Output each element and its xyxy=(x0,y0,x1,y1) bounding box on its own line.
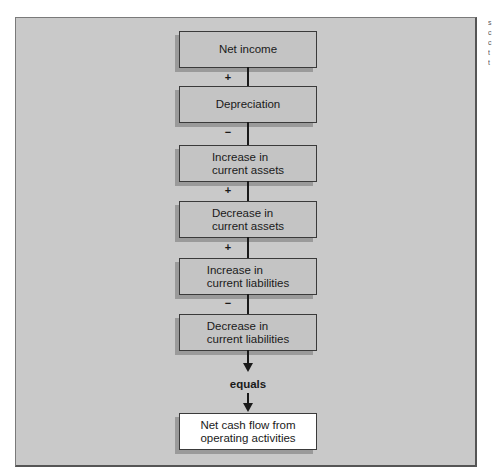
box-decrease-current-assets: Decrease incurrent assets xyxy=(179,201,317,238)
connector-line xyxy=(247,122,249,145)
box-label: Net cash flow fromoperating activities xyxy=(200,419,295,445)
plus-sign: + xyxy=(222,184,234,196)
minus-sign: − xyxy=(222,126,234,138)
box-depreciation: Depreciation xyxy=(179,86,317,123)
box-decrease-current-liabilities: Decrease incurrent liabilities xyxy=(179,314,317,351)
connector-line xyxy=(247,181,249,201)
connector-line xyxy=(247,294,249,314)
diagram-panel xyxy=(15,17,477,467)
box-net-cash-flow-operating: Net cash flow fromoperating activities xyxy=(179,413,317,450)
box-label: Net income xyxy=(219,43,277,56)
plus-sign: + xyxy=(222,241,234,253)
side-text-line: s xyxy=(488,18,493,28)
box-label: Increase incurrent liabilities xyxy=(207,264,289,290)
arrow-down-icon xyxy=(243,363,253,372)
box-net-income: Net income xyxy=(179,31,317,68)
side-text-line: c xyxy=(488,28,493,38)
connector-line xyxy=(247,67,249,86)
arrow-down-icon xyxy=(243,403,253,412)
minus-sign: − xyxy=(222,297,234,309)
side-text-line: t xyxy=(488,58,493,68)
equals-label: equals xyxy=(210,378,286,390)
connector-line xyxy=(247,237,249,258)
box-label: Depreciation xyxy=(216,98,281,111)
box-increase-current-liabilities: Increase incurrent liabilities xyxy=(179,258,317,295)
box-label: Increase incurrent assets xyxy=(212,151,284,177)
cropped-side-text: s c c t t xyxy=(488,18,493,68)
side-text-line: t xyxy=(488,48,493,58)
box-increase-current-assets: Increase incurrent assets xyxy=(179,145,317,182)
box-label: Decrease incurrent liabilities xyxy=(207,320,289,346)
side-text-line: c xyxy=(488,38,493,48)
box-label: Decrease incurrent assets xyxy=(212,207,284,233)
plus-sign: + xyxy=(222,71,234,83)
